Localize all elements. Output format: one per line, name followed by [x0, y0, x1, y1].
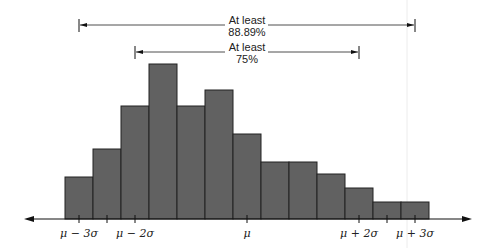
tick-label-mu-plus-3sigma: μ + 3σ	[396, 227, 434, 240]
histogram-bar	[121, 106, 149, 219]
axis-right-arrow-icon	[462, 216, 472, 222]
histogram-diagram: μ − 3σ μ − 2σ μ μ + 2σ μ + 3σ At least 8…	[0, 0, 484, 248]
histogram-bar	[261, 162, 289, 219]
tick-label-mu-minus-3sigma: μ − 3σ	[60, 227, 98, 240]
histogram-bar	[177, 106, 205, 219]
histogram-bar	[317, 174, 345, 219]
outer-range-annotation: At least 88.89%	[79, 14, 415, 38]
histogram-bar	[65, 177, 93, 219]
outer-right-arrow-icon	[407, 23, 414, 27]
inner-range-annotation: At least 75%	[135, 41, 359, 65]
tick-label-mu: μ	[243, 227, 250, 240]
outer-label-line1: At least	[229, 14, 266, 26]
histogram-bar	[345, 188, 373, 219]
inner-right-arrow-icon	[351, 50, 358, 54]
inner-label-line2: 75%	[236, 53, 258, 65]
inner-label-line1: At least	[229, 41, 266, 53]
outer-label-line2: 88.89%	[228, 26, 266, 38]
histogram-bar	[289, 162, 317, 219]
histogram-bar	[93, 149, 121, 219]
axis-left-arrow-icon	[24, 216, 34, 222]
tick-label-mu-minus-2sigma: μ − 2σ	[116, 227, 154, 240]
inner-left-arrow-icon	[136, 50, 143, 54]
outer-left-arrow-icon	[80, 23, 87, 27]
histogram-bars	[65, 64, 429, 219]
histogram-bar	[233, 134, 261, 219]
histogram-bar	[149, 64, 177, 219]
histogram-bar	[205, 90, 233, 219]
tick-label-mu-plus-2sigma: μ + 2σ	[340, 227, 378, 240]
